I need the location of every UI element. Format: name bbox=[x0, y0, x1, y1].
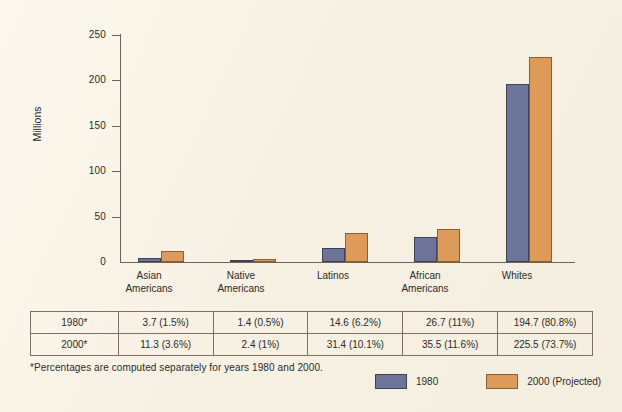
x-label-line2: Americans bbox=[181, 283, 301, 296]
legend-item-1980: 1980 bbox=[375, 374, 438, 389]
y-tick-label-150: 150 bbox=[66, 120, 106, 131]
y-tick-label-50: 50 bbox=[66, 211, 106, 222]
legend-label-1980: 1980 bbox=[416, 376, 438, 387]
table-cell-2000-african-americans: 35.5 (11.6%) bbox=[403, 334, 498, 356]
table-cell-1980-asian-americans: 3.7 (1.5%) bbox=[118, 312, 213, 334]
x-label-whites: Whites bbox=[457, 270, 577, 283]
bar-pair bbox=[322, 35, 368, 262]
chart-figure: Millions 250 200 150 100 50 0 Asian Amer… bbox=[0, 0, 622, 412]
bar-2000-whites[interactable] bbox=[529, 57, 552, 262]
table-cell-1980-african-americans: 26.7 (11%) bbox=[403, 312, 498, 334]
table-row-label-1980: 1980* bbox=[31, 312, 119, 334]
y-tick-label-0: 0 bbox=[66, 256, 106, 267]
y-tick-label-100: 100 bbox=[66, 165, 106, 176]
table-cell-2000-whites: 225.5 (73.7%) bbox=[498, 334, 593, 356]
x-label-line1: Whites bbox=[457, 270, 577, 283]
legend-swatch-2000 bbox=[486, 374, 518, 389]
y-axis-line bbox=[120, 34, 121, 263]
data-table-wrapper: 1980* 3.7 (1.5%) 1.4 (0.5%) 14.6 (6.2%) … bbox=[30, 311, 593, 355]
bar-pair bbox=[506, 35, 552, 262]
x-axis-line bbox=[120, 262, 575, 263]
table-row: 2000* 11.3 (3.6%) 2.4 (1%) 31.4 (10.1%) … bbox=[31, 334, 593, 356]
table-cell-1980-latinos: 14.6 (6.2%) bbox=[308, 312, 403, 334]
bar-1980-african-americans[interactable] bbox=[414, 237, 437, 262]
table-row-label-2000: 2000* bbox=[31, 334, 119, 356]
x-label-line2: Americans bbox=[365, 283, 485, 296]
table-cell-2000-asian-americans: 11.3 (3.6%) bbox=[118, 334, 213, 356]
bar-1980-latinos[interactable] bbox=[322, 248, 345, 262]
table-cell-1980-native-americans: 1.4 (0.5%) bbox=[213, 312, 308, 334]
y-tick-label-250: 250 bbox=[66, 29, 106, 40]
bar-1980-asian-americans[interactable] bbox=[138, 258, 161, 262]
bar-1980-native-americans[interactable] bbox=[230, 260, 253, 262]
legend-swatch-1980 bbox=[375, 374, 407, 389]
bar-2000-native-americans[interactable] bbox=[253, 259, 276, 262]
bar-1980-whites[interactable] bbox=[506, 84, 529, 262]
legend-item-2000: 2000 (Projected) bbox=[486, 374, 601, 389]
data-table: 1980* 3.7 (1.5%) 1.4 (0.5%) 14.6 (6.2%) … bbox=[30, 311, 593, 356]
footnote: *Percentages are computed separately for… bbox=[30, 362, 323, 373]
bar-pair bbox=[230, 35, 276, 262]
y-tick-label-200: 200 bbox=[66, 74, 106, 85]
table-row: 1980* 3.7 (1.5%) 1.4 (0.5%) 14.6 (6.2%) … bbox=[31, 312, 593, 334]
legend-label-2000: 2000 (Projected) bbox=[527, 376, 601, 387]
y-axis-title: Millions bbox=[31, 79, 43, 169]
bar-pair bbox=[138, 35, 184, 262]
chart-legend: 1980 2000 (Projected) bbox=[375, 374, 601, 389]
bar-2000-african-americans[interactable] bbox=[437, 229, 460, 262]
bar-2000-asian-americans[interactable] bbox=[161, 251, 184, 262]
bar-2000-latinos[interactable] bbox=[345, 233, 368, 262]
table-cell-1980-whites: 194.7 (80.8%) bbox=[498, 312, 593, 334]
table-cell-2000-latinos: 31.4 (10.1%) bbox=[308, 334, 403, 356]
table-cell-2000-native-americans: 2.4 (1%) bbox=[213, 334, 308, 356]
bar-pair bbox=[414, 35, 460, 262]
